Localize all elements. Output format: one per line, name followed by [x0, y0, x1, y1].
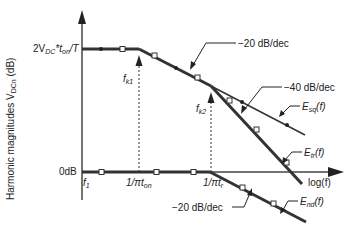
- end-leader: [283, 201, 298, 210]
- x-axis-arrow-icon: [328, 167, 344, 177]
- slope-20-bottom-label: −20 dB/dec: [172, 202, 223, 213]
- bode-diagram: Harmonic magnitudes VDCn (dB) 2VDC*ton/T…: [0, 0, 356, 231]
- fk2-arrow-icon: [208, 92, 215, 103]
- end-curve: [210, 172, 306, 222]
- etr-curve: [211, 86, 302, 184]
- slope20-top-leader: [193, 43, 236, 65]
- y-top-label: 2VDC*ton/T: [33, 43, 80, 55]
- end-label: End(f): [300, 196, 324, 208]
- esq-label: Esq(f): [302, 101, 326, 114]
- slope-20-top-label: −20 dB/dec: [238, 38, 289, 49]
- slope-40-label: −40 dB/dec: [284, 82, 335, 93]
- y-axis-arrow-icon: [78, 10, 86, 24]
- etr-label: Etr(f): [304, 147, 324, 159]
- etr-leader: [285, 152, 302, 160]
- y-zero-label: 0dB: [59, 166, 77, 177]
- fk1-arrow-icon: [136, 55, 143, 66]
- x-tick-ton: 1/πton: [126, 177, 152, 189]
- x-axis-label: log(f): [308, 177, 331, 188]
- x-tick-tr: 1/πtr: [203, 177, 224, 189]
- filled-markers: [99, 47, 289, 127]
- slope20-bottom-leader: [232, 193, 250, 207]
- esq-leader: [282, 106, 300, 114]
- fk1-label: fk1: [123, 73, 133, 85]
- y-axis-label: Harmonic magnitudes VDCn (dB): [5, 58, 17, 200]
- x-tick-f1: f1: [83, 177, 90, 189]
- fk2-label: fk2: [196, 103, 206, 115]
